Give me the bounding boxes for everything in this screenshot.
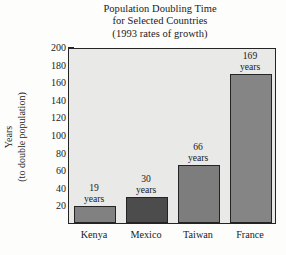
y-axis-title-line-1: Years: [3, 92, 16, 181]
bar-value-mexico: 30years: [116, 173, 176, 195]
bar-value-text: years: [220, 61, 280, 72]
bar-value-text: years: [64, 193, 124, 204]
y-axis-tick-label: 140: [32, 96, 66, 106]
y-axis-tick-label: 60: [32, 166, 66, 176]
chart-title: Population Doubling Time for Selected Co…: [60, 3, 260, 40]
y-axis-tick-labels: 20406080100120140160180200: [28, 0, 66, 255]
bar-value-text: years: [116, 184, 176, 195]
chart-title-line-1: Population Doubling Time: [60, 3, 260, 15]
bar-value-text: 30: [116, 173, 176, 184]
bar-france: [230, 74, 272, 223]
chart-title-line-3: (1993 rates of growth): [60, 28, 260, 40]
y-axis-tick-label: 40: [32, 184, 66, 194]
bar-chart: Population Doubling Time for Selected Co…: [0, 0, 286, 255]
chart-title-line-2: for Selected Countries: [60, 15, 260, 27]
category-label-taiwan: Taiwan: [172, 229, 224, 240]
bar-taiwan: [178, 165, 220, 223]
y-axis-tick-label: 180: [32, 61, 66, 71]
bar-value-taiwan: 66years: [168, 141, 228, 163]
y-axis-title: Years (to double population): [0, 48, 30, 225]
category-label-mexico: Mexico: [120, 229, 172, 240]
bar-mexico: [126, 197, 168, 223]
y-axis-tick-label: 20: [32, 201, 66, 211]
y-axis-title-line-2: (to double population): [15, 92, 28, 181]
category-label-kenya: Kenya: [68, 229, 120, 240]
bar-value-france: 169years: [220, 50, 280, 72]
bar-kenya: [74, 206, 116, 223]
y-axis-tick-label: 160: [32, 78, 66, 88]
category-label-france: France: [224, 229, 276, 240]
bar-value-text: 19: [64, 182, 124, 193]
bar-value-text: 66: [168, 141, 228, 152]
bar-value-kenya: 19years: [64, 182, 124, 204]
y-axis-tick-label: 80: [32, 149, 66, 159]
y-axis-tick-label: 100: [32, 131, 66, 141]
y-axis-tick-label: 200: [32, 43, 66, 53]
bar-value-text: years: [168, 152, 228, 163]
bar-value-text: 169: [220, 50, 280, 61]
y-axis-tick-label: 120: [32, 113, 66, 123]
